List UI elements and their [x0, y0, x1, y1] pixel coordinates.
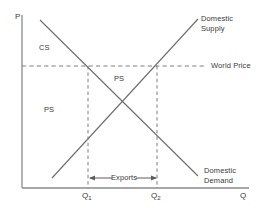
domestic-demand-label-line1: Domestic [204, 166, 236, 175]
producer-surplus-label-left: PS [44, 105, 54, 115]
exports-arrow-right-head [151, 176, 157, 181]
exports-label: Exports [111, 173, 137, 183]
supply-demand-export-diagram: P Q CS PS PS World Price Domestic Supply… [0, 0, 270, 215]
domestic-demand-label-line2: Demand [204, 176, 233, 185]
domestic-supply-label-line1: Domestic [201, 14, 233, 23]
x-axis-label: Q [240, 191, 246, 201]
domestic-supply-label-line2: Supply [201, 24, 225, 33]
q1-subscript: 1 [88, 195, 91, 201]
producer-surplus-label-middle: PS [114, 74, 124, 84]
domestic-demand-curve [40, 20, 198, 176]
consumer-surplus-label: CS [39, 43, 50, 53]
y-axis-label: P [15, 12, 20, 22]
q2-subscript: 2 [157, 195, 160, 201]
world-price-label: World Price [211, 61, 251, 71]
exports-arrow-left-head [89, 176, 95, 181]
x-tick-label-q2: Q2 [151, 191, 161, 202]
domestic-demand-label: Domestic Demand [204, 166, 264, 185]
domestic-supply-label: Domestic Supply [201, 14, 261, 33]
x-tick-label-q1: Q1 [82, 191, 92, 202]
